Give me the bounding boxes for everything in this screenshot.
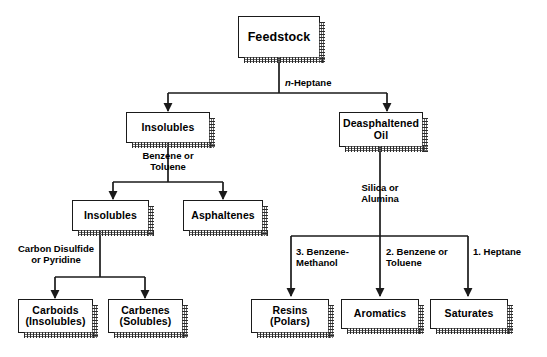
node-asphaltenes-label: Asphaltenes (189, 210, 257, 222)
node-carboids[interactable]: Carboids (Insolubles) (18, 299, 93, 333)
node-aromatics[interactable]: Aromatics (341, 299, 419, 329)
edge-label-benzene-methanol: 3. Benzene- Methanol (296, 246, 376, 268)
node-insolubles-primary[interactable]: Insolubles (126, 112, 210, 143)
edge-label-silica-alumina: Silica or Alumina (334, 182, 426, 204)
node-aromatics-label: Aromatics (352, 308, 408, 320)
node-deasphaltened-oil-label: Deasphaltened Oil (341, 118, 421, 141)
node-insolubles-secondary[interactable]: Insolubles (72, 200, 149, 231)
edge-label-n-heptane-rest: -Heptane (291, 77, 332, 88)
node-insolubles-secondary-label: Insolubles (82, 210, 139, 222)
node-resins-label: Resins (Polars) (268, 305, 312, 328)
edge-label-benzene-toluene-primary: Benzene or Toluene (122, 150, 214, 172)
node-saturates[interactable]: Saturates (430, 299, 508, 329)
flowchart-diagram: Feedstock Insolubles Deasphaltened Oil I… (0, 0, 547, 357)
edge-label-carbon-disulfide-pyridine: Carbon Disulfide or Pyridine (6, 243, 106, 265)
node-carboids-label: Carboids (Insolubles) (23, 305, 87, 328)
node-deasphaltened-oil[interactable]: Deasphaltened Oil (339, 112, 423, 147)
node-saturates-label: Saturates (443, 308, 496, 320)
node-feedstock[interactable]: Feedstock (238, 16, 320, 58)
node-insolubles-primary-label: Insolubles (140, 122, 197, 134)
edge-label-benzene-toluene-secondary: 2. Benzene or Toluene (386, 246, 464, 268)
node-feedstock-label: Feedstock (246, 31, 313, 44)
node-carbenes-label: Carbenes (Solubles) (118, 305, 174, 328)
node-asphaltenes[interactable]: Asphaltenes (183, 200, 263, 231)
node-resins[interactable]: Resins (Polars) (251, 299, 329, 333)
edge-label-n-heptane: n-Heptane (285, 66, 331, 88)
node-carbenes[interactable]: Carbenes (Solubles) (108, 299, 183, 333)
edge-label-heptane: 1. Heptane (473, 246, 543, 257)
